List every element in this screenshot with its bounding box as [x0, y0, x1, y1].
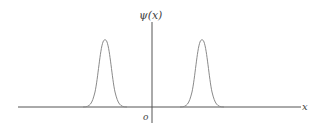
y-axis-label: ψ(x) — [139, 9, 162, 22]
right-peak-curve — [180, 40, 224, 107]
wavefunction-diagram: ψ(x) x o — [0, 0, 318, 135]
left-peak-curve — [83, 40, 127, 107]
x-axis-label: x — [302, 101, 308, 112]
origin-label: o — [143, 112, 149, 122]
